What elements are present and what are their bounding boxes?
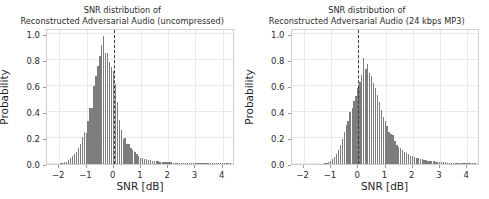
plot-area-left xyxy=(46,29,234,165)
x-tick-mark xyxy=(113,165,114,168)
y-tick-label: 0.2 xyxy=(259,134,285,144)
histogram-bar xyxy=(173,163,174,164)
y-tick-mark xyxy=(43,113,46,114)
x-tick-label: −1 xyxy=(324,170,337,180)
x-tick-mark xyxy=(194,165,195,168)
x-tick-mark xyxy=(58,165,59,168)
x-tick-label: 3 xyxy=(192,170,197,180)
histogram-bars xyxy=(292,30,478,164)
x-tick-label: 0 xyxy=(355,170,360,180)
histogram-bar xyxy=(445,162,446,164)
y-tick-label: 0.0 xyxy=(14,160,40,170)
y-tick-mark xyxy=(288,35,291,36)
y-tick-mark xyxy=(43,61,46,62)
histogram-bar xyxy=(105,53,106,164)
y-tick-mark xyxy=(43,35,46,36)
x-tick-mark xyxy=(303,165,304,168)
histogram-bar xyxy=(187,163,188,164)
y-tick-mark xyxy=(43,165,46,166)
histogram-bar xyxy=(336,154,337,164)
histogram-bar xyxy=(119,120,120,164)
x-tick-mark xyxy=(140,165,141,168)
y-tick-label: 0.2 xyxy=(14,134,40,144)
histogram-bar xyxy=(227,163,228,164)
y-tick-label: 0.0 xyxy=(259,160,285,170)
y-tick-mark xyxy=(288,139,291,140)
y-tick-mark xyxy=(288,87,291,88)
histogram-bar xyxy=(458,163,459,164)
histogram-bar xyxy=(66,162,67,164)
y-tick-label: 0.8 xyxy=(259,56,285,66)
histogram-bar xyxy=(146,159,147,164)
histogram-bar xyxy=(200,163,201,164)
y-tick-mark xyxy=(43,139,46,140)
y-tick-label: 0.6 xyxy=(259,82,285,92)
histogram-bar xyxy=(417,158,418,164)
x-axis-label-left: SNR [dB] xyxy=(46,180,234,192)
x-tick-mark xyxy=(222,165,223,168)
histogram-bar xyxy=(472,163,473,164)
x-tick-mark xyxy=(357,165,358,168)
x-tick-label: 1 xyxy=(137,170,142,180)
chart-panel-left: SNR distribution of Reconstructed Advers… xyxy=(0,0,245,199)
x-tick-label: 0 xyxy=(110,170,115,180)
y-tick-label: 0.6 xyxy=(14,82,40,92)
chart-title-right: SNR distribution of Reconstructed Advers… xyxy=(245,5,489,26)
chart-title-line2: Reconstructed Adversarial Audio (24 kbps… xyxy=(245,16,489,27)
y-tick-mark xyxy=(288,165,291,166)
x-tick-mark xyxy=(167,165,168,168)
x-tick-mark xyxy=(412,165,413,168)
histogram-bar xyxy=(390,134,391,164)
x-tick-mark xyxy=(330,165,331,168)
histogram-bar xyxy=(214,163,215,164)
figure: SNR distribution of Reconstructed Advers… xyxy=(0,0,489,199)
x-axis-label-right: SNR [dB] xyxy=(291,180,479,192)
histogram-bar xyxy=(404,152,405,164)
y-tick-label: 0.4 xyxy=(259,108,285,118)
x-tick-label: 1 xyxy=(382,170,387,180)
chart-title-line1: SNR distribution of xyxy=(84,5,161,15)
histogram-bar xyxy=(349,112,350,164)
histogram-bar xyxy=(363,58,364,164)
x-tick-label: −2 xyxy=(52,170,65,180)
plot-area-right xyxy=(291,29,479,165)
x-tick-label: 2 xyxy=(165,170,170,180)
x-tick-label: 4 xyxy=(219,170,224,180)
x-tick-label: −1 xyxy=(79,170,92,180)
y-tick-mark xyxy=(288,61,291,62)
histogram-bar xyxy=(377,95,378,164)
x-tick-mark xyxy=(86,165,87,168)
histogram-bar xyxy=(78,148,79,164)
histogram-bar xyxy=(431,161,432,164)
reference-vline xyxy=(114,30,115,164)
y-tick-mark xyxy=(43,87,46,88)
chart-title-left: SNR distribution of Reconstructed Advers… xyxy=(0,5,245,26)
histogram-bar xyxy=(132,150,133,164)
x-tick-label: −2 xyxy=(296,170,309,180)
x-tick-mark xyxy=(466,165,467,168)
x-tick-label: 4 xyxy=(464,170,469,180)
y-axis-label-left: Probability xyxy=(0,69,10,125)
y-tick-label: 0.8 xyxy=(14,56,40,66)
chart-title-line1: SNR distribution of xyxy=(328,5,405,15)
reference-vline xyxy=(358,30,359,164)
x-tick-mark xyxy=(439,165,440,168)
chart-title-line2: Reconstructed Adversarial Audio (uncompr… xyxy=(0,16,245,27)
x-tick-mark xyxy=(385,165,386,168)
y-axis-label-right: Probability xyxy=(243,69,255,125)
histogram-bar xyxy=(230,163,231,164)
x-tick-label: 2 xyxy=(409,170,414,180)
y-tick-label: 0.4 xyxy=(14,108,40,118)
histogram-bars xyxy=(47,30,233,164)
histogram-bar xyxy=(91,108,92,164)
y-tick-mark xyxy=(288,113,291,114)
chart-panel-right: SNR distribution of Reconstructed Advers… xyxy=(245,0,489,199)
histogram-bar xyxy=(159,162,160,164)
x-tick-label: 3 xyxy=(436,170,441,180)
y-tick-label: 1.0 xyxy=(259,30,285,40)
histogram-bar xyxy=(474,163,475,164)
y-tick-label: 1.0 xyxy=(14,30,40,40)
